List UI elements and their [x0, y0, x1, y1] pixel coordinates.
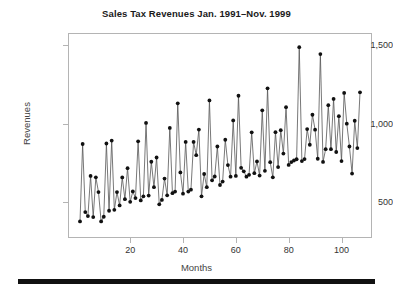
data-point [329, 147, 333, 151]
data-point [287, 163, 291, 167]
data-point [112, 208, 116, 212]
y-axis-tick-label: 1,000 [343, 119, 393, 129]
data-point [321, 160, 325, 164]
data-point [337, 114, 341, 118]
data-point [120, 176, 124, 180]
data-point [128, 200, 132, 204]
data-point [131, 190, 135, 194]
data-point [355, 146, 359, 150]
data-point [260, 108, 264, 112]
data-point [142, 194, 146, 198]
data-point [318, 52, 322, 56]
data-point [107, 209, 111, 213]
data-point [316, 157, 320, 161]
data-point [284, 105, 288, 109]
data-point [268, 160, 272, 164]
data-point [86, 214, 90, 218]
data-point [110, 139, 114, 143]
data-point [297, 45, 301, 49]
data-point [178, 171, 182, 175]
data-point [239, 166, 243, 170]
data-point [252, 171, 256, 175]
data-point [94, 175, 98, 179]
data-point [165, 193, 169, 197]
data-point [81, 142, 85, 146]
data-point [194, 153, 198, 157]
y-axis-tick-mark [63, 202, 68, 203]
data-point [226, 163, 230, 167]
data-point [342, 91, 346, 95]
data-point [123, 197, 127, 201]
data-point [332, 97, 336, 101]
data-point [136, 139, 140, 143]
data-point [91, 215, 95, 219]
data-point [218, 183, 222, 187]
data-point [184, 140, 188, 144]
data-point [324, 147, 328, 151]
data-point [358, 90, 362, 94]
data-point [311, 113, 315, 117]
data-point [350, 172, 354, 176]
data-point [313, 128, 317, 132]
data-point [157, 202, 161, 206]
y-axis-tick-mark [63, 124, 68, 125]
data-point [202, 172, 206, 176]
data-point [176, 101, 180, 105]
y-axis-tick-label: 500 [343, 197, 393, 207]
data-point [276, 165, 280, 169]
data-point [126, 166, 130, 170]
data-point [181, 192, 185, 196]
y-axis-tick-mark [63, 45, 68, 46]
data-point [231, 119, 235, 123]
data-point [189, 188, 193, 192]
data-point [326, 103, 330, 107]
data-point [152, 185, 156, 189]
data-point [168, 126, 172, 130]
data-point [221, 180, 225, 184]
data-point [213, 175, 217, 179]
x-axis-tick-mark [289, 238, 290, 243]
x-axis-title: Months [0, 262, 393, 273]
data-point [197, 128, 201, 132]
data-point [210, 178, 214, 182]
data-point [83, 210, 87, 214]
series-line-sales-tax-revenues [80, 47, 360, 221]
data-point [258, 174, 262, 178]
data-point [192, 140, 196, 144]
data-point [229, 175, 233, 179]
data-point [208, 99, 212, 103]
data-point [242, 169, 246, 173]
x-axis-tick-label: 40 [163, 245, 203, 255]
data-point [155, 156, 159, 160]
x-axis-tick-label: 60 [216, 245, 256, 255]
data-point [334, 150, 338, 154]
data-point [340, 159, 344, 163]
data-point [78, 220, 82, 224]
data-point [147, 194, 151, 198]
data-point [282, 152, 286, 156]
data-point [200, 194, 204, 198]
data-point [97, 190, 101, 194]
data-point [250, 130, 254, 134]
data-point [348, 145, 352, 149]
data-point [134, 196, 138, 200]
data-point [149, 160, 153, 164]
x-axis-tick-mark [236, 238, 237, 243]
data-point [139, 199, 143, 203]
data-point [160, 198, 164, 202]
data-point [102, 215, 106, 219]
data-point [89, 174, 93, 178]
x-axis-tick-mark [342, 238, 343, 243]
x-axis-tick-label: 80 [269, 245, 309, 255]
chart-figure: Sales Tax Revenues Jan. 1991–Nov. 1999 R… [0, 0, 393, 289]
data-point [271, 175, 275, 179]
data-point [215, 145, 219, 149]
data-point [99, 220, 103, 224]
data-point [274, 130, 278, 134]
data-point [247, 173, 251, 177]
data-point [173, 190, 177, 194]
data-point [279, 128, 283, 132]
data-point [263, 169, 267, 173]
data-point [255, 160, 259, 164]
data-point [303, 157, 307, 161]
